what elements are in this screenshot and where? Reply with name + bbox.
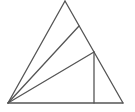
- triangle-diagram: [0, 0, 135, 112]
- side-AB: [8, 1, 65, 103]
- segment-BE: [8, 52, 94, 103]
- segment-BD: [8, 26, 79, 103]
